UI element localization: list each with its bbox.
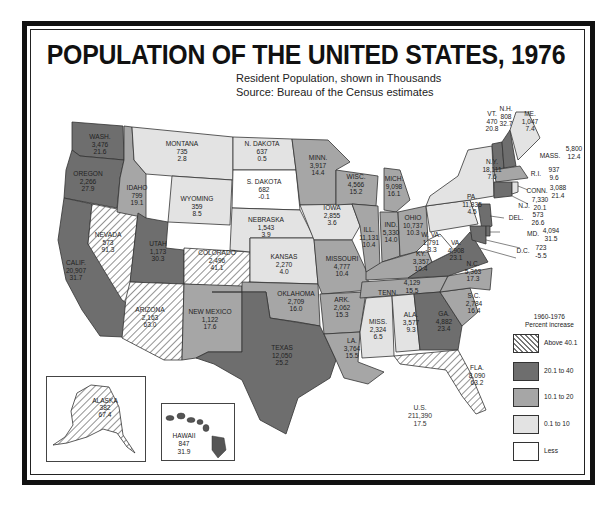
legend-swatch-mid bbox=[513, 388, 539, 407]
svg-text:N.H.80832.7: N.H.80832.7 bbox=[499, 105, 512, 127]
svg-text:4,09431.5: 4,09431.5 bbox=[543, 227, 560, 242]
us-total-population: 211,390 bbox=[390, 412, 450, 420]
svg-text:UTAH1,17330.3: UTAH1,17330.3 bbox=[149, 240, 167, 262]
state-del bbox=[486, 226, 490, 236]
svg-text:ARK.2,06215.3: ARK.2,06215.3 bbox=[334, 296, 351, 318]
svg-text:9379.6: 9379.6 bbox=[548, 166, 559, 181]
svg-text:IND.5,33014.0: IND.5,33014.0 bbox=[383, 221, 400, 243]
svg-text:847: 847 bbox=[178, 440, 189, 447]
svg-text:VT.47020.8: VT.47020.8 bbox=[486, 110, 499, 132]
svg-text:R.I.: R.I. bbox=[531, 170, 541, 177]
us-total-name: U.S. bbox=[390, 404, 450, 412]
svg-text:31.9: 31.9 bbox=[178, 448, 191, 455]
svg-text:ALASKA: ALASKA bbox=[92, 397, 118, 404]
state-ny bbox=[426, 146, 494, 206]
legend-item-20-to-40: 20.1 to 40 bbox=[513, 362, 603, 384]
legend-swatch-light bbox=[513, 415, 539, 434]
us-total: U.S. 211,390 17.5 bbox=[390, 404, 450, 428]
svg-text:N.C.5,36317.3: N.C.5,36317.3 bbox=[465, 260, 482, 282]
svg-text:MD.: MD. bbox=[527, 230, 539, 237]
svg-text:3,08821.4: 3,08821.4 bbox=[550, 184, 567, 199]
legend-item-0-to-10: 0.1 to 10 bbox=[513, 415, 603, 437]
svg-text:57326.6: 57326.6 bbox=[532, 211, 545, 226]
svg-text:4,12915.5: 4,12915.5 bbox=[404, 279, 421, 294]
svg-text:MASS.: MASS. bbox=[540, 152, 561, 159]
svg-text:7,33020.1: 7,33020.1 bbox=[532, 196, 549, 211]
legend-swatch-white bbox=[513, 442, 539, 461]
state-conn bbox=[494, 182, 512, 198]
svg-text:FLA.8,09063.2: FLA.8,09063.2 bbox=[469, 364, 486, 386]
hawaii-inset: HAWAII 847 31.9 bbox=[161, 403, 235, 461]
legend-title: 1960-1976 Percent increase bbox=[525, 313, 574, 329]
svg-text:HAWAII: HAWAII bbox=[173, 432, 196, 439]
us-total-pct: 17.5 bbox=[390, 420, 450, 428]
state-ri bbox=[512, 182, 518, 194]
legend-item-above-40: Above 40.1 bbox=[513, 334, 603, 356]
svg-text:D.C.: D.C. bbox=[516, 247, 529, 254]
svg-text:5,80012.4: 5,80012.4 bbox=[566, 145, 583, 160]
legend-swatch-hatch bbox=[513, 334, 539, 353]
svg-text:N.J.: N.J. bbox=[518, 202, 530, 209]
alaska-inset: ALASKA 382 67.4 bbox=[46, 376, 146, 462]
svg-text:S.C.2,78416.4: S.C.2,78416.4 bbox=[466, 292, 483, 314]
svg-text:67.4: 67.4 bbox=[99, 411, 112, 418]
legend-swatch-dark bbox=[513, 362, 539, 381]
legend-item-less: Less bbox=[513, 442, 603, 464]
svg-text:723-5.5: 723-5.5 bbox=[535, 244, 547, 259]
svg-text:CONN.: CONN. bbox=[526, 187, 547, 194]
svg-text:DEL.: DEL. bbox=[509, 214, 524, 221]
svg-text:382: 382 bbox=[99, 404, 110, 411]
legend-item-10-to-20: 10.1 to 20 bbox=[513, 388, 603, 410]
svg-text:TENN.: TENN. bbox=[378, 289, 398, 296]
